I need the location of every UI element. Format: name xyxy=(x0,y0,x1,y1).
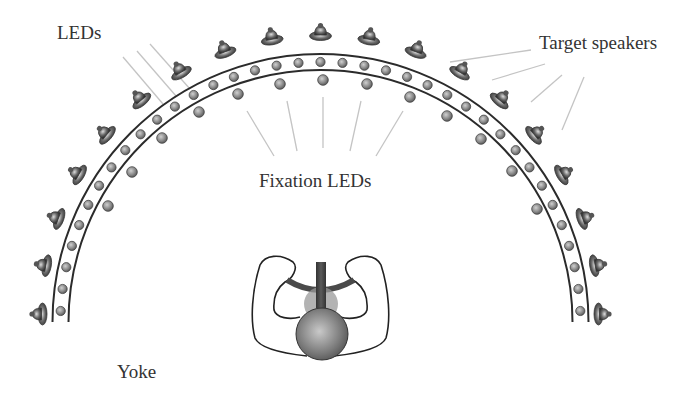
led-icon xyxy=(570,263,579,272)
fixation-led-icon xyxy=(194,107,205,118)
pointer-line-target-speakers xyxy=(562,77,584,130)
pointer-line-target-speakers xyxy=(492,64,545,80)
led-icon xyxy=(381,66,390,75)
label-fixation-leds: Fixation LEDs xyxy=(259,171,371,190)
label-yoke: Yoke xyxy=(117,362,156,381)
led-icon xyxy=(107,163,116,172)
led-icon xyxy=(557,221,566,230)
pointer-line-leds xyxy=(137,51,176,96)
speaker-icon xyxy=(574,204,598,231)
led-icon xyxy=(537,181,546,190)
led-icon xyxy=(423,81,432,90)
speaker-icon xyxy=(32,253,53,278)
speaker-icon xyxy=(523,118,551,146)
fixation-led-icon xyxy=(127,167,138,178)
fixation-led-icon xyxy=(233,89,244,100)
speaker-icon xyxy=(552,159,578,187)
pointer-line-target-speakers xyxy=(450,50,531,62)
led-icon xyxy=(209,81,218,90)
led-icon xyxy=(565,241,574,250)
fixation-led-icon xyxy=(318,75,329,86)
speaker-icon xyxy=(165,56,193,82)
fixation-led-icon xyxy=(157,133,168,144)
led-icon xyxy=(153,115,162,124)
led-icon xyxy=(189,90,198,99)
led-icon xyxy=(576,306,585,315)
led-icon xyxy=(511,146,520,155)
subject-with-yoke xyxy=(252,256,388,360)
led-icon xyxy=(58,284,67,293)
fixation-led-icon xyxy=(476,134,487,145)
pointer-line-target-speakers xyxy=(531,75,562,102)
led-icon xyxy=(479,115,488,124)
led-icon xyxy=(272,61,281,70)
speaker-icon xyxy=(211,37,238,61)
speaker-icon xyxy=(43,204,67,231)
speaker-icon xyxy=(29,303,47,325)
speaker-icon xyxy=(310,23,332,41)
pointer-line-fixation-leds xyxy=(287,101,297,151)
led-icon xyxy=(56,306,65,315)
led-icon xyxy=(462,102,471,111)
speaker-icon xyxy=(357,25,382,46)
pointer-line-fixation-leds xyxy=(376,111,403,156)
led-icon xyxy=(84,200,93,209)
led-icon xyxy=(338,58,347,67)
led-icon xyxy=(75,221,84,230)
led-icon xyxy=(574,284,583,293)
led-icon xyxy=(548,200,557,209)
led-icon xyxy=(95,181,104,190)
led-icon xyxy=(121,146,130,155)
fixation-led-icon xyxy=(507,166,518,177)
pointer-line-fixation-leds xyxy=(350,101,361,151)
led-icon xyxy=(403,72,412,81)
yoke-setup-diagram: LEDs Target speakers Fixation LEDs Yoke xyxy=(0,0,699,398)
speaker-icon xyxy=(404,37,431,61)
speaker-icon xyxy=(588,253,609,278)
speaker-icon xyxy=(90,118,118,146)
speaker-icon xyxy=(63,159,89,187)
pointer-lines xyxy=(123,44,584,156)
led-icon xyxy=(443,90,452,99)
led-icon xyxy=(360,61,369,70)
fixation-led-icon xyxy=(275,79,286,90)
pointer-line-fixation-leds xyxy=(247,111,274,156)
label-leds: LEDs xyxy=(57,23,101,42)
speaker-icon xyxy=(594,303,612,325)
led-icon xyxy=(525,163,534,172)
led-icon xyxy=(67,241,76,250)
led-icon xyxy=(170,102,179,111)
speaker-icon xyxy=(259,25,284,46)
fixation-led-icon xyxy=(362,79,373,90)
led-icon xyxy=(294,58,303,67)
speaker-icon xyxy=(488,84,516,112)
led-icon xyxy=(250,66,259,75)
led-icon xyxy=(496,130,505,139)
led-icon xyxy=(62,263,71,272)
led-icon xyxy=(136,130,145,139)
led-icon xyxy=(316,57,325,66)
led-icon xyxy=(229,72,238,81)
head xyxy=(296,308,348,360)
fixation-led-icon xyxy=(103,201,114,212)
diagram-canvas xyxy=(0,0,699,398)
label-target-speakers: Target speakers xyxy=(539,33,657,52)
fixation-led-icon xyxy=(405,92,416,103)
fixation-led-icon xyxy=(532,204,543,215)
yoke-bar xyxy=(316,262,326,308)
fixation-led-icon xyxy=(442,111,453,122)
